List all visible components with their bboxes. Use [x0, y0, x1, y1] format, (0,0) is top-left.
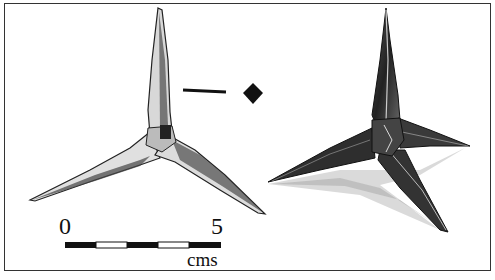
- caltrop-right-drawing: [268, 8, 470, 232]
- caltrop-left-drawing: [30, 8, 265, 214]
- scale-unit-label: cms: [187, 250, 218, 269]
- section-diamond-icon: [243, 83, 263, 104]
- section-line: [183, 90, 226, 92]
- scale-end-label: 5: [211, 214, 223, 238]
- scale-start-label: 0: [59, 214, 71, 238]
- scale-bar: [65, 242, 221, 248]
- figure-artwork: [0, 0, 495, 280]
